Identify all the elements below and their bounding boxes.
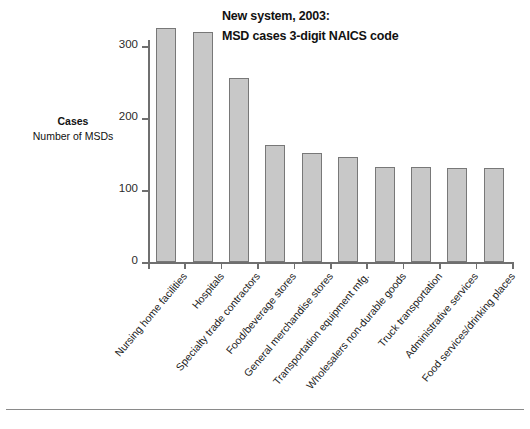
bar-chart: New system, 2003: MSD cases 3-digit NAIC… <box>0 0 530 429</box>
bars-layer <box>148 20 512 262</box>
y-axis-caption-main: Cases <box>14 114 132 129</box>
bottom-divider <box>6 409 524 410</box>
bar <box>302 153 322 262</box>
y-axis-tick-label: 300 <box>119 38 138 50</box>
bar <box>447 168 467 262</box>
x-axis-label: Truck transportation <box>375 270 444 349</box>
y-axis-tick-label: 200 <box>119 110 138 122</box>
x-axis-label: Nursing home facilities <box>112 270 189 359</box>
y-axis-caption: Cases Number of MSDs <box>14 114 132 144</box>
y-axis-tick-label: 0 <box>132 254 138 266</box>
x-axis-label: Hospitals <box>189 270 226 311</box>
bar <box>375 167 395 262</box>
bar <box>411 167 431 262</box>
y-axis-caption-sub: Number of MSDs <box>14 129 132 144</box>
plot-area: 0100200300 <box>148 20 512 262</box>
bar <box>193 32 213 262</box>
y-axis-tick-label: 100 <box>119 182 138 194</box>
bar <box>229 78 249 262</box>
x-axis-labels: Nursing home facilitiesHospitalsSpecialt… <box>148 262 530 402</box>
bar <box>156 28 176 262</box>
bar <box>265 145 285 262</box>
bar <box>338 157 358 262</box>
x-axis-label: Food/beverage stores <box>224 270 299 356</box>
bar <box>484 168 504 262</box>
